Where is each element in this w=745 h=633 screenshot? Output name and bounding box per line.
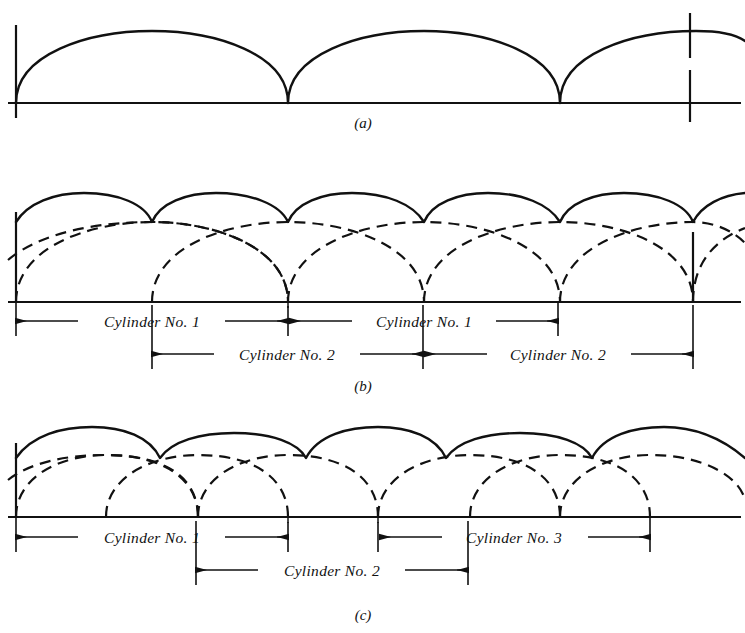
panel-b-dashed-family-1: [16, 222, 745, 302]
panel-b: Cylinder No. 1 Cylinder No. 1 Cylinder N…: [8, 193, 745, 395]
panel-b-dashed-arc: [288, 222, 560, 302]
torque-diagram-figure: (a) Cylin: [0, 0, 745, 633]
panel-c-dashed-arc: [560, 455, 745, 517]
panel-c-resultant-curve: [16, 427, 745, 458]
dim-label-cylinder-2: Cylinder No. 2: [284, 562, 380, 579]
dim-label-cylinder-3: Cylinder No. 3: [466, 529, 562, 546]
panel-b-dim-cylinder-2-b: Cylinder No. 2: [425, 346, 693, 363]
panel-b-dashed-arc: [8, 222, 288, 302]
panel-b-dim-cylinder-1-b: Cylinder No. 1: [290, 313, 558, 330]
panel-b-dashed-arc: [693, 228, 745, 302]
panel-c: Cylinder No. 1 Cylinder No. 3 Cylinder N…: [8, 427, 745, 624]
panel-b-dashed-arc: [560, 222, 745, 302]
panel-a-label: (a): [354, 115, 372, 132]
panel-b-dashed-family-2: [8, 222, 745, 302]
panel-b-dim-cylinder-2-a: Cylinder No. 2: [152, 346, 423, 363]
dim-label-cylinder-1: Cylinder No. 1: [376, 313, 472, 330]
panel-a: (a): [8, 13, 745, 132]
panel-a-torque-curve: [16, 31, 745, 103]
panel-b-resultant-curve: [16, 193, 745, 222]
panel-b-dashed-arc: [152, 222, 424, 302]
panel-c-dashed-arc: [378, 455, 560, 517]
panel-c-dashed-family-1: [16, 455, 650, 517]
panel-b-label: (b): [354, 378, 372, 395]
dim-label-cylinder-1: Cylinder No. 1: [104, 313, 200, 330]
panel-c-dim-cylinder-1: Cylinder No. 1: [16, 529, 288, 546]
panel-c-label: (c): [355, 607, 372, 624]
dim-label-cylinder-1: Cylinder No. 1: [104, 529, 200, 546]
panel-c-dim-cylinder-3: Cylinder No. 3: [380, 529, 650, 546]
panel-b-dim-cylinder-1-a: Cylinder No. 1: [16, 313, 288, 330]
dim-label-cylinder-2: Cylinder No. 2: [239, 346, 335, 363]
panel-c-dim-cylinder-2: Cylinder No. 2: [196, 562, 468, 579]
dim-label-cylinder-2: Cylinder No. 2: [510, 346, 606, 363]
panel-c-dashed-arc: [8, 455, 198, 517]
panel-b-dashed-arc: [424, 222, 693, 302]
